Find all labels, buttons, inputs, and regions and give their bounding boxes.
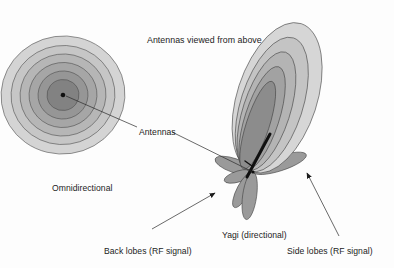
diagram-canvas: Antennas viewed from above Omnidirection… bbox=[0, 0, 394, 268]
antennas-label: Antennas bbox=[139, 127, 176, 137]
yagi-origin-dot bbox=[251, 170, 254, 173]
back-lobes-label: Back lobes (RF signal) bbox=[104, 246, 192, 256]
omnidirectional-label: Omnidirectional bbox=[52, 183, 112, 193]
antenna-radiation-pattern-figure: Antennas viewed from above Omnidirection… bbox=[0, 0, 394, 268]
yagi-label: Yagi (directional) bbox=[222, 230, 287, 240]
side-lobes-label: Side lobes (RF signal) bbox=[287, 246, 373, 256]
title-label: Antennas viewed from above bbox=[147, 35, 262, 45]
